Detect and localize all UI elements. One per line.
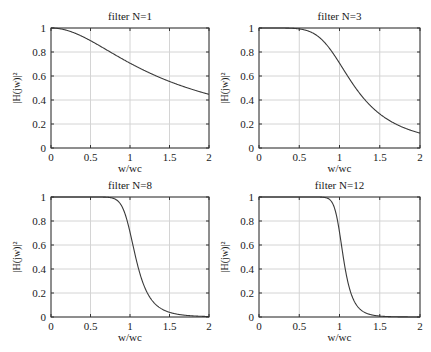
y-tick-label: 0.4 <box>32 263 46 275</box>
y-tick-label: 1 <box>249 191 255 203</box>
y-tick-label: 0.6 <box>32 239 46 251</box>
y-tick-label: 0.4 <box>32 94 46 106</box>
y-tick-label: 0.2 <box>32 118 46 130</box>
x-tick-label: 2 <box>417 151 423 163</box>
y-tick-label: 1 <box>41 191 47 203</box>
y-tick-label: 0 <box>249 142 255 154</box>
subplot-n12: filter N=12 00.511.5200.20.40.60.81w/wc|… <box>219 179 423 343</box>
subplot-n8: filter N=8 00.511.5200.20.40.60.81w/wc|H… <box>11 179 212 343</box>
y-tick-label: 0.2 <box>240 287 254 299</box>
y-tick-label: 0.8 <box>240 215 254 227</box>
y-tick-label: 0.6 <box>240 70 254 82</box>
y-tick-label: 1 <box>249 22 255 34</box>
y-tick-label: 0.4 <box>240 94 254 106</box>
x-axis-label: w/wc <box>328 162 352 174</box>
subplot-title: filter N=8 <box>108 179 152 191</box>
x-tick-label: 0 <box>256 151 262 163</box>
y-tick-label: 1 <box>41 22 47 34</box>
x-tick-label: 2 <box>206 151 212 163</box>
y-tick-label: 0.4 <box>240 263 254 275</box>
x-axis-label: w/wc <box>328 331 352 343</box>
x-tick-label: 0 <box>256 320 262 332</box>
x-tick-label: 0.5 <box>292 320 306 332</box>
x-axis-label: w/wc <box>118 162 142 174</box>
x-tick-label: 0.5 <box>292 151 306 163</box>
subplot-title: filter N=1 <box>108 10 152 22</box>
subplot-title: filter N=3 <box>318 10 362 22</box>
x-tick-label: 1.5 <box>373 320 387 332</box>
subplot-n1: filter N=1 00.511.5200.20.40.60.81w/wc|H… <box>11 10 212 174</box>
y-tick-label: 0 <box>41 142 47 154</box>
x-tick-label: 1.5 <box>163 151 177 163</box>
y-tick-label: 0.6 <box>32 70 46 82</box>
y-axis-label: |H(jw)|² <box>11 73 23 104</box>
y-tick-label: 0.6 <box>240 239 254 251</box>
x-tick-label: 2 <box>206 320 212 332</box>
y-tick-label: 0.2 <box>32 287 46 299</box>
x-tick-label: 0 <box>48 320 54 332</box>
y-tick-label: 0 <box>41 311 47 323</box>
x-tick-label: 0.5 <box>84 320 98 332</box>
x-axis-label: w/wc <box>118 331 142 343</box>
butterworth-filter-figure: filter N=1 00.511.5200.20.40.60.81w/wc|H… <box>0 0 431 352</box>
x-tick-label: 1.5 <box>163 320 177 332</box>
y-axis-label: |H(jw)|² <box>219 73 231 104</box>
y-axis-label: |H(jw)|² <box>11 242 23 273</box>
x-tick-label: 0 <box>48 151 54 163</box>
y-tick-label: 0.2 <box>240 118 254 130</box>
subplot-title: filter N=12 <box>315 179 364 191</box>
y-tick-label: 0.8 <box>32 215 46 227</box>
x-tick-label: 0.5 <box>84 151 98 163</box>
y-tick-label: 0.8 <box>32 46 46 58</box>
x-tick-label: 1.5 <box>373 151 387 163</box>
y-tick-label: 0 <box>249 311 255 323</box>
y-axis-label: |H(jw)|² <box>219 242 231 273</box>
subplot-n3: filter N=3 00.511.5200.20.40.60.81w/wc|H… <box>219 10 423 174</box>
x-tick-label: 2 <box>417 320 423 332</box>
y-tick-label: 0.8 <box>240 46 254 58</box>
